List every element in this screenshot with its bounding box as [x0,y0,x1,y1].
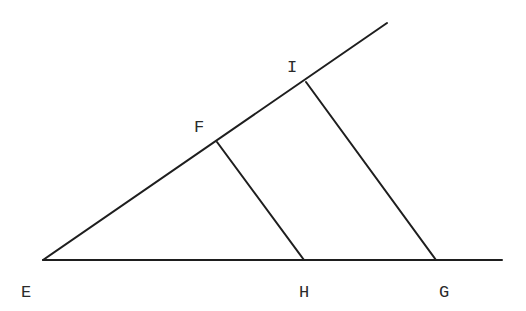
label-I: I [287,58,297,77]
labels: E F I H G [21,58,449,302]
label-H: H [299,283,309,302]
segment-IG [306,82,436,260]
segment-FH [217,142,304,260]
label-F: F [194,118,204,137]
segments [43,23,502,260]
geometry-diagram: E F I H G [0,0,526,311]
ray-upper [43,23,387,260]
label-G: G [439,283,449,302]
label-E: E [21,283,31,302]
